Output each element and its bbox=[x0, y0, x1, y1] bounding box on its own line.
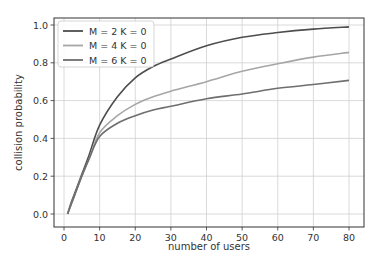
line-chart: 01020304050607080 0.00.20.40.60.81.0 num… bbox=[0, 0, 381, 267]
y-tick-label: 0.4 bbox=[33, 133, 48, 144]
x-tick-label: 60 bbox=[272, 232, 284, 243]
legend-label: M = 6 K = 0 bbox=[89, 55, 147, 66]
y-tick-label: 1.0 bbox=[33, 20, 48, 31]
legend-label: M = 4 K = 0 bbox=[89, 40, 147, 51]
y-tick-label: 0.8 bbox=[33, 57, 48, 68]
x-tick-label: 20 bbox=[129, 232, 141, 243]
legend-label: M = 2 K = 0 bbox=[89, 26, 147, 37]
y-axis-ticks: 0.00.20.40.60.81.0 bbox=[33, 20, 54, 220]
x-tick-label: 10 bbox=[94, 232, 106, 243]
y-axis-label: collision probability bbox=[13, 74, 24, 171]
y-tick-label: 0.2 bbox=[33, 171, 48, 182]
x-tick-label: 80 bbox=[343, 232, 355, 243]
legend: M = 2 K = 0M = 4 K = 0M = 6 K = 0 bbox=[58, 21, 154, 67]
series-line bbox=[68, 52, 349, 214]
y-tick-label: 0.0 bbox=[33, 209, 48, 220]
x-tick-label: 0 bbox=[61, 232, 67, 243]
x-axis-label: number of users bbox=[168, 241, 250, 252]
x-tick-label: 70 bbox=[307, 232, 319, 243]
y-tick-label: 0.6 bbox=[33, 95, 48, 106]
